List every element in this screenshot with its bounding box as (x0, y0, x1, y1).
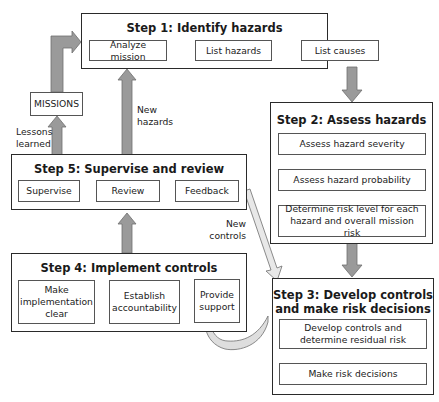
step1-to-step2-arrow (342, 67, 362, 102)
step2-box-risk-level: Determine risk level for each hazard and… (278, 205, 426, 237)
step1-box-list-causes: List causes (301, 40, 379, 61)
step2-title: Step 2: Assess hazards (271, 113, 432, 127)
step5-title: Step 5: Supervise and review (12, 162, 246, 176)
missions-to-step1-arrow (51, 31, 81, 92)
step2-to-step3-arrow (342, 243, 362, 277)
step1-box-list-hazards: List hazards (195, 40, 272, 61)
step4-title: Step 4: Implement controls (12, 261, 246, 275)
step2-box-probability: Assess hazard probability (278, 169, 426, 191)
step3-box-make-risk-decisions: Make risk decisions (279, 363, 427, 385)
step5-box-feedback: Feedback (175, 180, 239, 202)
step4-to-step5-arrow (118, 213, 136, 253)
new-hazards-label: New hazards (137, 104, 173, 128)
step4-box-provide-support: Provide support (194, 279, 240, 323)
step5-box-supervise: Supervise (18, 180, 80, 202)
missions-label: MISSIONS (34, 98, 79, 110)
new-hazards-arrow (118, 69, 136, 155)
step3-title: Step 3: Develop controls and make risk d… (273, 288, 433, 316)
step4-box-establish-accountability: Establish accountability (109, 280, 180, 324)
step3-box-develop-controls: Develop controls and determine residual … (279, 319, 427, 349)
step4-box-make-implementation-clear: Make implementation clear (18, 280, 95, 324)
new-controls-label: New controls (208, 218, 246, 242)
step1-title: Step 1: Identify hazards (82, 21, 327, 35)
lessons-learned-label: Lessons learned (16, 126, 48, 150)
step1-box-analyze-mission: Analyze mission (89, 40, 167, 61)
missions-box: MISSIONS (30, 92, 83, 116)
step2-box-severity: Assess hazard severity (278, 133, 426, 155)
step5-box-review: Review (96, 180, 160, 202)
